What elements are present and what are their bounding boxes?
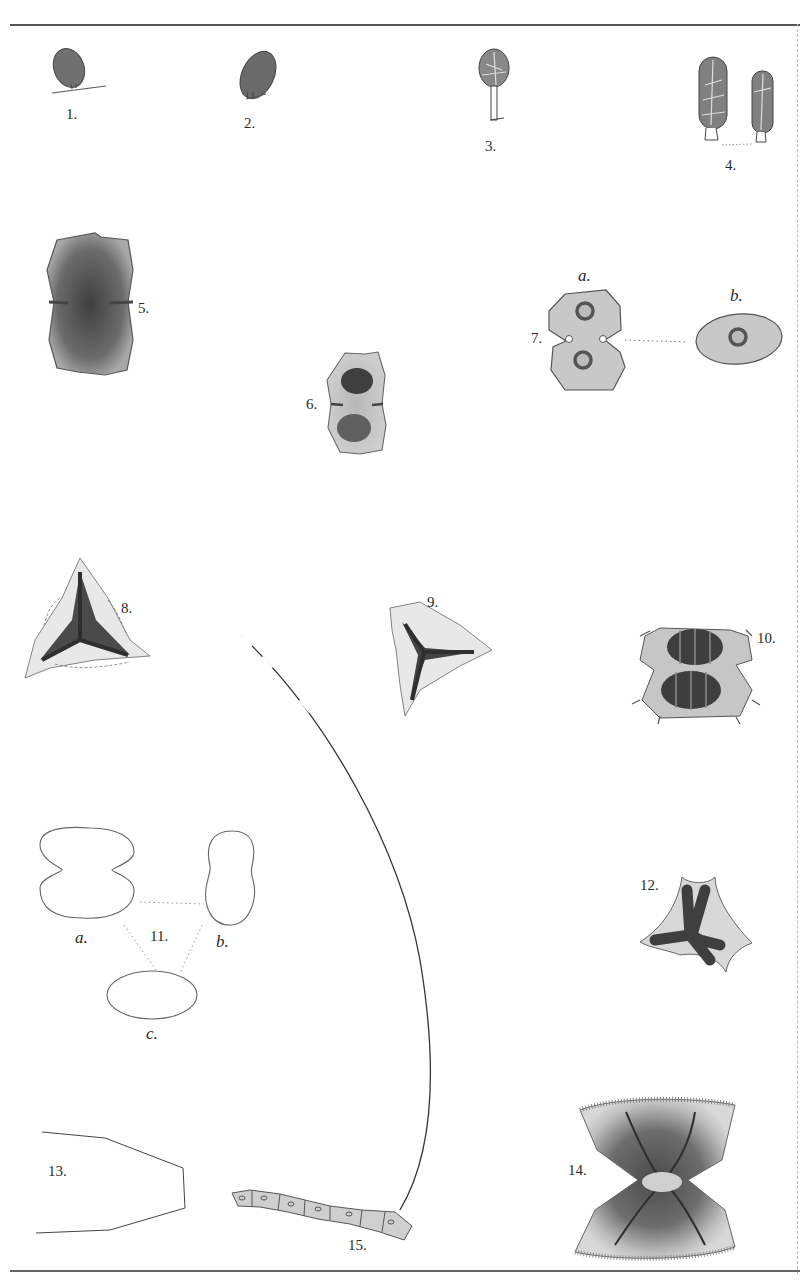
figure-11b-label: b.	[216, 932, 229, 952]
figure-5-label: 5.	[138, 300, 149, 317]
figure-13-drawing	[36, 1132, 185, 1233]
figure-11a-label: a.	[75, 928, 88, 948]
figure-1-label: 1.	[66, 106, 77, 123]
figure-1-drawing	[48, 44, 106, 93]
figure-8-drawing	[25, 558, 150, 678]
figure-4-drawing	[699, 57, 773, 145]
figure-2-drawing	[233, 46, 283, 105]
figure-12-label: 12.	[640, 877, 659, 894]
figure-4-label: 4.	[725, 157, 736, 174]
figure-3-label: 3.	[485, 138, 496, 155]
figure-14-label: 14.	[568, 1162, 587, 1179]
figure-5-drawing	[47, 233, 133, 375]
figure-14-drawing	[575, 1099, 735, 1258]
figure-6-label: 6.	[306, 396, 317, 413]
figure-11c-label: c.	[146, 1024, 158, 1044]
figure-13-label: 13.	[48, 1163, 67, 1180]
figure-15-label: 15.	[348, 1237, 367, 1254]
figure-10-drawing	[632, 628, 760, 724]
figure-7b-label: b.	[730, 286, 743, 306]
figure-11c-drawing	[107, 971, 197, 1019]
figure-11b-drawing	[206, 831, 255, 925]
figure-10-label: 10.	[757, 630, 776, 647]
figure-3-drawing	[479, 49, 509, 120]
figure-9-label: 9.	[427, 594, 438, 611]
plate-illustrations	[0, 0, 803, 1283]
figure-6-drawing	[327, 352, 386, 454]
figure-8-label: 8.	[121, 600, 132, 617]
figure-15-strand-gaps	[242, 636, 310, 712]
figure-15-filament	[232, 1190, 412, 1240]
scientific-plate: 1. 2. 3. 4. 5. 6. 7. a. b. 8. 9. 10. 11.…	[0, 0, 803, 1283]
figure-11a-drawing	[40, 827, 134, 918]
figure-2-label: 2.	[244, 115, 255, 132]
figure-7a-drawing	[549, 290, 688, 390]
figure-15-strand	[242, 636, 430, 1210]
figure-7-label: 7.	[531, 330, 542, 347]
figure-7b-nucleus	[730, 329, 746, 345]
figure-11-label: 11.	[150, 928, 168, 945]
figure-9-drawing	[390, 602, 492, 716]
figure-7a-label: a.	[578, 266, 591, 286]
